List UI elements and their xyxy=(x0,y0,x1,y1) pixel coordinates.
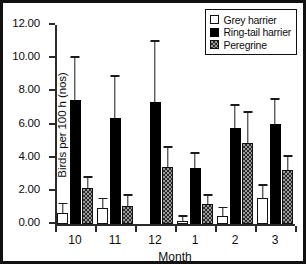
y-tick: 8.00 xyxy=(49,89,55,91)
y-tick-label: 10.00 xyxy=(12,50,40,62)
error-bar xyxy=(270,99,281,224)
error-bar xyxy=(162,147,173,224)
y-tick-label: 2.00 xyxy=(18,183,40,195)
error-bar-stem xyxy=(287,156,288,170)
x-tick xyxy=(55,226,57,232)
error-bar-stem xyxy=(262,185,263,198)
y-tick: 0.00 xyxy=(49,222,55,224)
error-bar-cap xyxy=(178,215,187,217)
error-bar-cap xyxy=(218,207,227,209)
error-bar xyxy=(97,198,108,224)
error-bar xyxy=(122,195,133,224)
error-bar-stem xyxy=(127,195,128,206)
y-tick: 2.00 xyxy=(49,189,55,191)
error-bar-cap xyxy=(163,146,172,148)
y-axis-title: Birds per 100 h (nos) xyxy=(56,72,68,177)
x-tick-label: 11 xyxy=(109,233,121,247)
error-bar-stem xyxy=(102,198,103,208)
error-bar xyxy=(110,76,121,224)
error-bar-cap xyxy=(191,152,200,154)
error-bar-cap xyxy=(271,98,280,100)
legend-label: Ring-tail harrier xyxy=(223,27,291,37)
y-tick-label: 0.00 xyxy=(18,216,40,228)
error-bar-cap xyxy=(151,40,160,42)
x-tick xyxy=(295,226,297,232)
legend-swatch-icon xyxy=(210,15,219,24)
error-bar-stem xyxy=(207,195,208,204)
legend-label: Grey harrier xyxy=(223,15,276,25)
x-tick-label: 1 xyxy=(192,233,199,247)
x-tick xyxy=(95,226,97,232)
error-bar-stem xyxy=(247,112,248,143)
error-bar xyxy=(242,112,253,224)
error-bar-cap xyxy=(203,194,212,196)
x-tick-label: 3 xyxy=(272,233,279,247)
error-bar-stem xyxy=(194,153,195,168)
y-tick: 12.00 xyxy=(49,23,55,25)
x-tick xyxy=(175,226,177,232)
error-bar-stem xyxy=(114,76,115,118)
legend-label: Peregrine xyxy=(223,40,266,50)
y-tick-label: 6.00 xyxy=(18,116,40,128)
x-tick xyxy=(255,226,257,232)
x-tick xyxy=(215,226,217,232)
error-bar-cap xyxy=(258,184,267,186)
error-bar xyxy=(202,195,213,224)
error-bar-cap xyxy=(58,203,67,205)
legend-item: Peregrine xyxy=(210,39,291,51)
error-bar xyxy=(282,156,293,224)
error-bar xyxy=(230,105,241,224)
error-bar-stem xyxy=(274,99,275,124)
error-bar-stem xyxy=(154,41,155,102)
y-tick-label: 4.00 xyxy=(18,149,40,161)
chart-figure: 0.002.004.006.008.0010.0012.00 101112123… xyxy=(0,0,306,264)
error-bar-stem xyxy=(87,177,88,188)
legend-item: Ring-tail harrier xyxy=(210,26,291,38)
error-bar-cap xyxy=(231,104,240,106)
error-bar-cap xyxy=(123,194,132,196)
legend-item: Grey harrier xyxy=(210,14,291,26)
error-bar xyxy=(150,41,161,224)
y-tick: 10.00 xyxy=(49,56,55,58)
error-bar xyxy=(57,203,68,224)
error-bar-cap xyxy=(83,176,92,178)
y-tick-label: 8.00 xyxy=(18,83,40,95)
error-bar xyxy=(217,207,228,224)
x-tick-label: 10 xyxy=(68,233,81,247)
y-tick-label: 12.00 xyxy=(12,17,40,29)
error-bar-stem xyxy=(167,147,168,167)
legend-swatch-icon xyxy=(210,28,219,37)
x-axis-title: Month xyxy=(158,250,191,264)
error-bar-cap xyxy=(71,56,80,58)
error-bar-cap xyxy=(283,155,292,157)
error-bar-cap xyxy=(243,111,252,113)
y-tick: 4.00 xyxy=(49,156,55,158)
y-tick: 6.00 xyxy=(49,123,55,125)
x-tick xyxy=(135,226,137,232)
error-bar-stem xyxy=(234,105,235,128)
error-bar xyxy=(70,57,81,224)
x-tick-label: 12 xyxy=(148,233,161,247)
error-bar-cap xyxy=(111,75,120,77)
x-tick-label: 2 xyxy=(232,233,239,247)
error-bar-stem xyxy=(74,57,75,100)
error-bar-cap xyxy=(98,198,107,200)
error-bar xyxy=(190,153,201,224)
error-bar-stem xyxy=(222,207,223,215)
error-bar-stem xyxy=(62,203,63,213)
error-bar xyxy=(257,185,268,224)
chart-legend: Grey harrierRing-tail harrierPeregrine xyxy=(205,9,297,55)
error-bar xyxy=(177,216,188,224)
legend-swatch-icon xyxy=(210,40,219,49)
error-bar xyxy=(82,177,93,224)
